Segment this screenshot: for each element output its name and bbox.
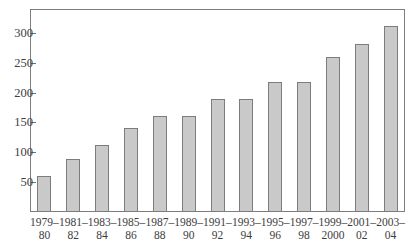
bar xyxy=(326,57,340,212)
bar xyxy=(297,82,311,212)
x-axis-label-line2: 04 xyxy=(372,229,409,242)
bar xyxy=(384,26,398,212)
bar xyxy=(211,99,225,212)
x-axis-tick-label: 2003–04 xyxy=(372,216,409,242)
y-axis-tick-label: 300 xyxy=(0,27,33,39)
y-axis-tick-label: 200 xyxy=(0,87,33,99)
bar xyxy=(66,159,80,212)
bar xyxy=(239,99,253,212)
bars-container xyxy=(30,9,405,212)
y-axis-tick-label: 250 xyxy=(0,57,33,69)
y-axis-tick-label: 100 xyxy=(0,146,33,158)
bar xyxy=(153,116,167,212)
bar xyxy=(37,176,51,212)
x-axis-label-line1: 2003– xyxy=(372,216,409,229)
y-axis-tick-label: 150 xyxy=(0,116,33,128)
bar xyxy=(95,145,109,212)
bar xyxy=(182,116,196,212)
y-axis-tick-label: 50 xyxy=(0,176,33,188)
bar xyxy=(124,128,138,212)
bar xyxy=(268,82,282,212)
bar xyxy=(355,44,369,212)
bar-chart: 50100150200250300 1979–801981–821983–841… xyxy=(0,0,412,247)
